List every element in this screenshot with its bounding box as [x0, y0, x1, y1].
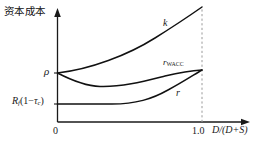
y-level-label-rho: ρ	[44, 66, 49, 77]
curve-r	[58, 70, 203, 104]
rf-paren-open: (1−	[20, 95, 34, 106]
rf-paren-close: )	[41, 95, 44, 106]
y-axis	[54, 8, 61, 122]
x-tick-label-0: 0	[53, 126, 58, 136]
cost-of-capital-figure: 资本成本 ρ Rf(1−τc) k rWACC r 0 1.0 D/(D+S)	[0, 0, 256, 146]
x-axis-title: D/(D+S)	[212, 125, 248, 135]
y-level-label-risk-free-after-tax: Rf(1−τc)	[12, 96, 44, 107]
y-axis-title: 资本成本	[4, 6, 46, 17]
x-tick-label-1: 1.0	[192, 126, 205, 136]
curve-label-rwacc: rWACC	[163, 58, 184, 68]
curve-label-k: k	[163, 18, 167, 28]
curve-rwacc	[58, 70, 203, 87]
curve-label-r: r	[176, 88, 180, 98]
rwacc-subscript: WACC	[167, 61, 184, 67]
